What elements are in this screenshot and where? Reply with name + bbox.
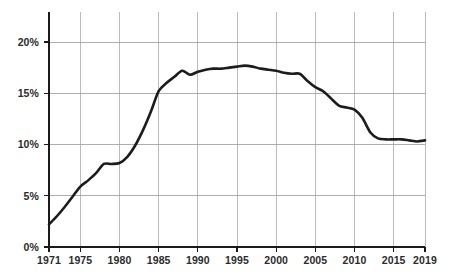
y-tick-label-0: 0% <box>24 241 40 253</box>
x-tick-label-2010: 2010 <box>343 254 367 266</box>
y-tick-label-20: 20% <box>18 36 40 48</box>
x-tick-label-2000: 2000 <box>264 254 288 266</box>
x-tick-label-1975: 1975 <box>68 254 92 266</box>
x-tick-label-1985: 1985 <box>147 254 171 266</box>
chart-container: 0%5%10%15%20% 19711975198019851990199520… <box>0 0 453 279</box>
y-tick-label-5: 5% <box>24 190 40 202</box>
line-chart: 0%5%10%15%20% 19711975198019851990199520… <box>0 0 453 279</box>
x-tick-label-1990: 1990 <box>186 254 210 266</box>
x-tick-label-2005: 2005 <box>303 254 327 266</box>
x-tick-label-1995: 1995 <box>225 254 249 266</box>
x-tick-label-1980: 1980 <box>108 254 132 266</box>
y-tick-label-10: 10% <box>18 138 40 150</box>
x-tick-label-1971: 1971 <box>37 254 61 266</box>
x-tick-label-2019: 2019 <box>413 254 437 266</box>
x-tick-label-2015: 2015 <box>382 254 406 266</box>
y-tick-label-15: 15% <box>18 87 40 99</box>
